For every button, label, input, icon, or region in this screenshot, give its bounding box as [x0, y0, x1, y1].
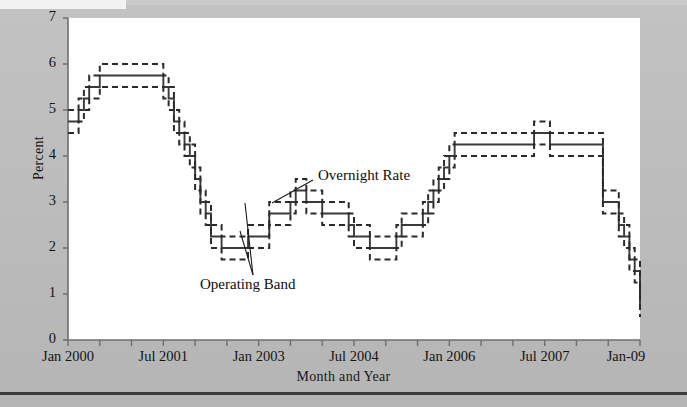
chart-figure: Percent Month and Year 01234567 Jan 2000…	[0, 0, 687, 407]
x-tick-label: Jan-09	[566, 348, 686, 365]
y-tick-label: 1	[30, 284, 56, 301]
x-axis-ticks	[68, 340, 640, 346]
y-tick-label: 6	[30, 54, 56, 71]
y-tick-label: 5	[30, 100, 56, 117]
y-tick-label: 3	[30, 192, 56, 209]
overnight-rate-line-chart	[0, 0, 687, 407]
x-axis-title: Month and Year	[0, 369, 687, 385]
y-tick-label: 4	[30, 146, 56, 163]
annotation-overnight-rate: Overnight Rate	[318, 167, 410, 184]
y-tick-label: 2	[30, 238, 56, 255]
bottom-divider-rule	[0, 392, 687, 395]
y-tick-label: 0	[30, 330, 56, 347]
annotation-operating-band: Operating Band	[200, 276, 295, 293]
y-tick-label: 7	[30, 8, 56, 25]
